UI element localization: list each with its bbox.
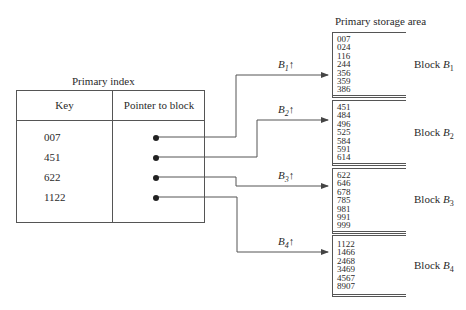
storage-block-1: 007 024 116 244 356 359 386 <box>332 32 406 98</box>
column-header-key: Key <box>17 99 112 111</box>
storage-block-2: 451 484 496 525 584 591 614 <box>332 100 406 166</box>
table-row-key: 622 <box>44 171 61 183</box>
pointer-label-b2: B2↑ <box>278 103 294 118</box>
block-label-4: Block B4 <box>414 259 454 274</box>
primary-index-title: Primary index <box>72 75 135 87</box>
storage-area-title: Primary storage area <box>335 15 426 27</box>
pointer-dot-icon <box>153 135 159 141</box>
storage-block-4: 1122 1466 2468 3469 4567 8907 <box>332 235 406 297</box>
primary-index-table: Key Pointer to block 007 451 622 1122 <box>16 90 205 223</box>
block-values: 007 024 116 244 356 359 386 <box>333 33 406 94</box>
block-label-2: Block B2 <box>414 126 454 141</box>
pointer-label-b1: B1↑ <box>278 58 294 73</box>
block-values: 622 646 678 785 981 991 999 <box>333 169 406 230</box>
block-values: 1122 1466 2468 3469 4567 8907 <box>333 236 406 290</box>
pointer-dot-icon <box>153 155 159 161</box>
column-header-pointer: Pointer to block <box>113 99 205 111</box>
block-values: 451 484 496 525 584 591 614 <box>333 101 406 162</box>
pointer-dot-icon <box>153 195 159 201</box>
pointer-label-b3: B3↑ <box>278 169 294 184</box>
table-row-key: 451 <box>44 151 61 163</box>
table-row-key: 1122 <box>44 191 66 203</box>
block-label-3: Block B3 <box>414 193 454 208</box>
table-row-key: 007 <box>44 131 61 143</box>
block-label-1: Block B1 <box>414 58 454 73</box>
pointer-dot-icon <box>153 175 159 181</box>
pointer-label-b4: B4↑ <box>278 235 294 250</box>
storage-block-3: 622 646 678 785 981 991 999 <box>332 168 406 234</box>
